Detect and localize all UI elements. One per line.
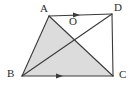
vertex-label-a: A xyxy=(40,3,48,14)
segment-ad xyxy=(49,14,112,16)
vertex-label-b: B xyxy=(7,68,14,79)
geometry-canvas xyxy=(0,0,135,91)
vertex-label-d: D xyxy=(114,2,122,13)
geometry-figure: A D B C O xyxy=(0,0,135,91)
vertex-label-c: C xyxy=(119,69,126,80)
vertex-label-o: O xyxy=(69,16,77,27)
segment-dc xyxy=(112,14,113,76)
